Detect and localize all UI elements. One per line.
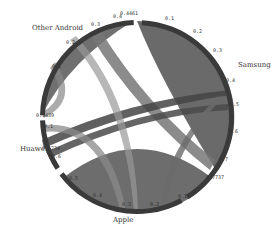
tick-label: 0.6 [52,153,61,159]
tick-label: 0.4461 [120,10,138,16]
tick-label: 0.1 [44,123,53,129]
tick-label: 0.7 [219,156,228,162]
tick-label: 0.3 [213,47,222,53]
tick-label: 0.6 [229,128,238,134]
tick-label: 0.1439 [36,112,54,118]
tick-label: 0.7737 [206,174,224,180]
tick-label: 0.1 [165,15,174,21]
tick-label: 0.2 [66,39,75,45]
group-label-other-android: Other Android [32,24,84,32]
tick-label: 0.3 [91,21,100,27]
chord-diagram: 0.10.20.30.40.50.60.70.77370.10.20.30.40… [0,0,274,236]
tick-label: 0.5 [230,101,239,107]
tick-label: 0.4 [226,77,235,83]
group-label-samsung: Samsung [238,61,271,69]
tick-label: 0.4 [93,192,102,198]
tick-label: 0.1 [52,63,61,69]
tick-label: 0.5 [69,175,78,181]
tick-label: 0.1 [178,193,187,199]
group-label-huawei: Huawei [20,145,48,153]
group-label-apple: Apple [112,216,133,224]
tick-label: 0.3 [122,201,131,207]
tick-label: 0.2 [193,28,202,34]
tick-label: 0.2 [150,201,159,207]
